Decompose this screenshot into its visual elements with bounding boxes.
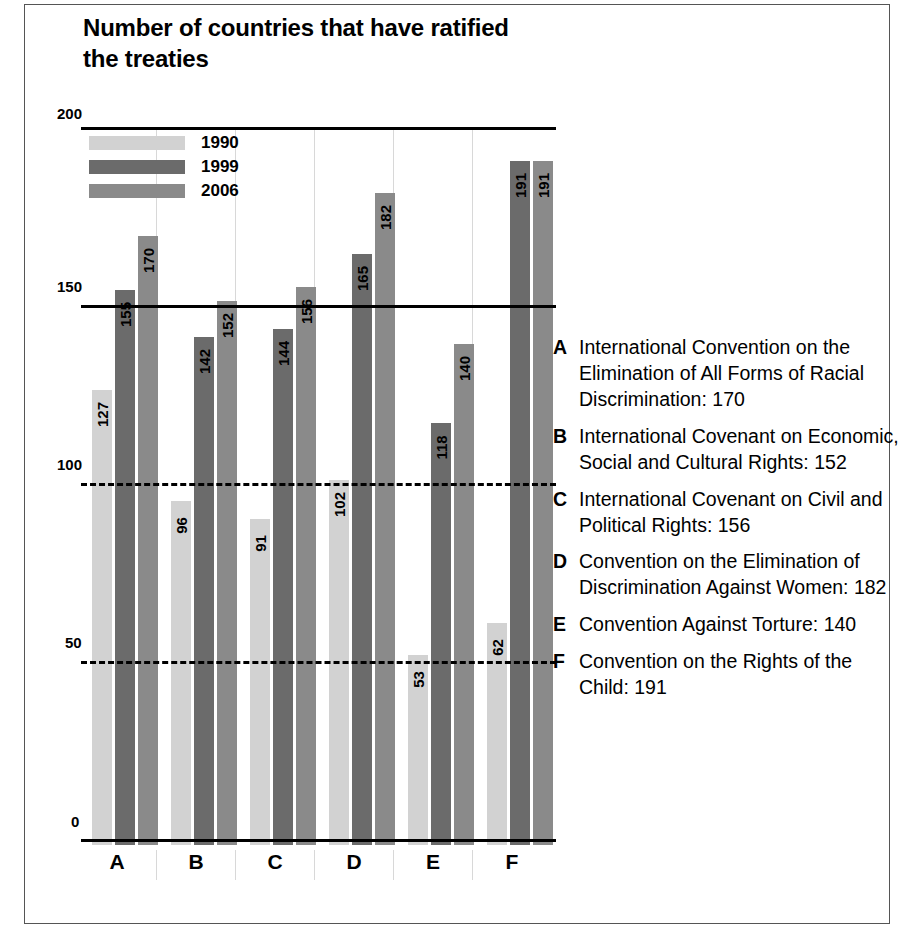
bar-value-label: 144 [275,341,292,366]
key-item-f: F Convention on the Rights of the Child:… [553,649,903,701]
key-letter-c: C [553,487,579,539]
group-separator [472,850,473,880]
key-item-b: B International Covenant on Economic, So… [553,424,903,476]
bar-value-label: 191 [535,173,552,198]
chart-title: Number of countries that have ratified t… [83,13,513,74]
legend-label-1999: 1999 [201,157,239,177]
bar-c-1990: 91 [250,519,270,845]
x-label-a: A [97,850,137,874]
key-text-f: Convention on the Rights of the Child: 1… [579,649,903,701]
key-letter-d: D [553,549,579,601]
bar-e-1990: 53 [408,655,428,845]
y-tick-0: 0 [71,813,79,830]
bar-c-1999: 144 [273,329,293,845]
bar-c-2006: 156 [296,287,316,845]
group-separator [393,850,394,880]
bar-b-1999: 142 [194,337,214,845]
bar-value-label: 62 [489,639,506,656]
bar-value-label: 140 [456,356,473,381]
key-text-c: International Covenant on Civil and Poli… [579,487,903,539]
key-item-e: E Convention Against Torture: 140 [553,612,903,638]
bar-value-label: 191 [512,173,529,198]
legend-item-1990: 1990 [89,133,269,153]
legend-label-1990: 1990 [201,133,239,153]
group-separator [314,850,315,880]
key-text-a: International Convention on the Eliminat… [579,335,903,413]
key-letter-f: F [553,649,579,701]
key-item-d: D Convention on the Elimination of Discr… [553,549,903,601]
x-label-c: C [255,850,295,874]
bar-value-label: 96 [173,517,190,534]
legend-label-2006: 2006 [201,181,239,201]
treaty-key: A International Convention on the Elimin… [553,335,903,712]
plot-area: 1271551709614215291144156102165182531181… [81,123,556,845]
gridline-150 [81,305,556,308]
gridline-100 [81,483,556,486]
key-text-e: Convention Against Torture: 140 [579,612,903,638]
y-tick-50: 50 [65,634,82,651]
chart-frame: Number of countries that have ratified t… [24,4,890,924]
bar-value-label: 156 [298,299,315,324]
y-tick-200: 200 [57,105,82,122]
key-item-c: C International Covenant on Civil and Po… [553,487,903,539]
key-letter-a: A [553,335,579,413]
bar-f-1990: 62 [487,623,507,845]
bar-f-1999: 191 [510,161,530,845]
x-label-f: F [492,850,532,874]
bar-value-label: 127 [94,402,111,427]
bar-value-label: 53 [410,671,427,688]
bar-a-2006: 170 [138,236,158,845]
legend-swatch-1999 [89,160,185,174]
group-separator [156,850,157,880]
legend-swatch-1990 [89,136,185,150]
bar-value-label: 118 [433,435,450,459]
bar-e-2006: 140 [454,344,474,845]
bar-d-1999: 165 [352,254,372,845]
key-text-b: International Covenant on Economic, Soci… [579,424,903,476]
series-legend: 1990 1999 2006 [89,133,269,205]
bar-value-label: 152 [219,313,236,338]
bar-value-label: 182 [377,205,394,230]
y-tick-100: 100 [57,456,82,473]
key-item-a: A International Convention on the Elimin… [553,335,903,413]
bar-value-label: 102 [331,492,348,517]
gridline-200 [81,127,556,130]
key-letter-b: B [553,424,579,476]
bar-d-2006: 182 [375,193,395,845]
x-axis-labels: A B C D E F [81,850,556,880]
bar-f-2006: 191 [533,161,553,845]
legend-item-1999: 1999 [89,157,269,177]
bar-a-1999: 155 [115,290,135,845]
x-label-d: D [334,850,374,874]
x-label-b: B [176,850,216,874]
bar-value-label: 170 [140,248,157,273]
bar-b-2006: 152 [217,301,237,845]
group-separator [235,850,236,880]
key-letter-e: E [553,612,579,638]
legend-item-2006: 2006 [89,181,269,201]
axis-baseline [81,839,556,842]
bar-b-1990: 96 [171,501,191,845]
y-tick-150: 150 [57,278,82,295]
bar-value-label: 142 [196,349,213,374]
x-label-e: E [413,850,453,874]
bar-value-label: 91 [252,535,269,552]
gridline-50 [81,661,556,664]
legend-swatch-2006 [89,184,185,198]
bar-a-1990: 127 [92,390,112,845]
bar-value-label: 165 [354,266,371,291]
key-text-d: Convention on the Elimination of Discrim… [579,549,903,601]
